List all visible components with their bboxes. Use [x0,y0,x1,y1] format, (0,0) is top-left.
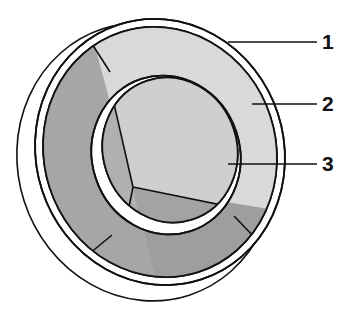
annular-component-drawing [0,0,354,310]
callout-label-3: 3 [322,153,334,174]
callout-label-2: 2 [322,93,334,114]
callout-label-1: 1 [322,31,334,52]
technical-figure: 1 2 3 [0,0,354,310]
